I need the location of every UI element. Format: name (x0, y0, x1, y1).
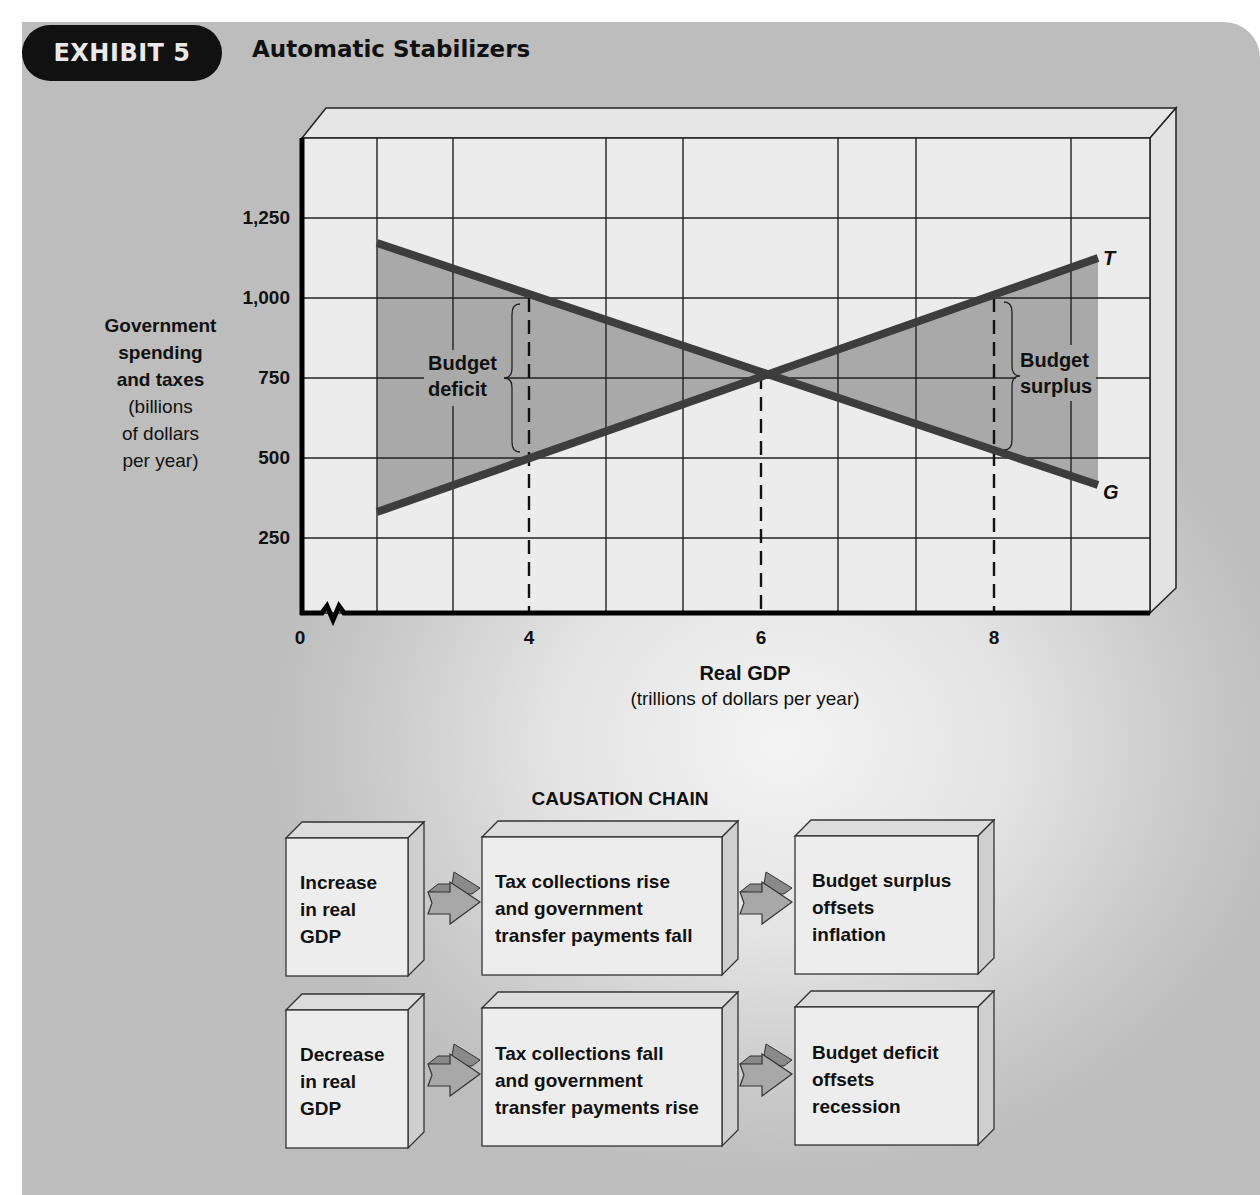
budget-surplus-annotation: Budget surplus (1020, 347, 1092, 399)
x-tick-label: 4 (514, 627, 544, 649)
y-tick-label: 750 (230, 367, 290, 389)
curve-G-label: G (1103, 481, 1119, 504)
causation-chain-title: CAUSATION CHAIN (470, 788, 770, 810)
chain-box-tax-fall: Tax collections fall and government tran… (495, 1040, 699, 1121)
chain-box-decrease-gdp: Decrease in real GDP (300, 1041, 385, 1122)
x-tick-label: 0 (285, 627, 315, 649)
y-axis-label: Government spending and taxes (billions … (88, 312, 233, 474)
chain-box-deficit-offsets-recession: Budget deficit offsets recession (812, 1039, 939, 1120)
arrow-icon (428, 1044, 480, 1096)
budget-deficit-annotation: Budget deficit (428, 350, 497, 402)
x-tick-label: 6 (746, 627, 776, 649)
chain-box-increase-gdp: Increase in real GDP (300, 869, 377, 950)
y-tick-label: 1,250 (230, 207, 290, 229)
arrow-icon (740, 872, 792, 924)
arrow-icon (740, 1044, 792, 1096)
curve-T-label: T (1103, 247, 1115, 270)
x-tick-label: 8 (979, 627, 1009, 649)
chart-graphics (0, 0, 1260, 1195)
y-tick-label: 500 (230, 447, 290, 469)
y-tick-label: 1,000 (230, 287, 290, 309)
y-tick-label: 250 (230, 527, 290, 549)
chain-box-surplus-offsets-inflation: Budget surplus offsets inflation (812, 867, 951, 948)
chain-box-tax-rise: Tax collections rise and government tran… (495, 868, 692, 949)
x-axis-label: Real GDP (trillions of dollars per year) (560, 660, 930, 712)
arrow-icon (428, 872, 480, 924)
